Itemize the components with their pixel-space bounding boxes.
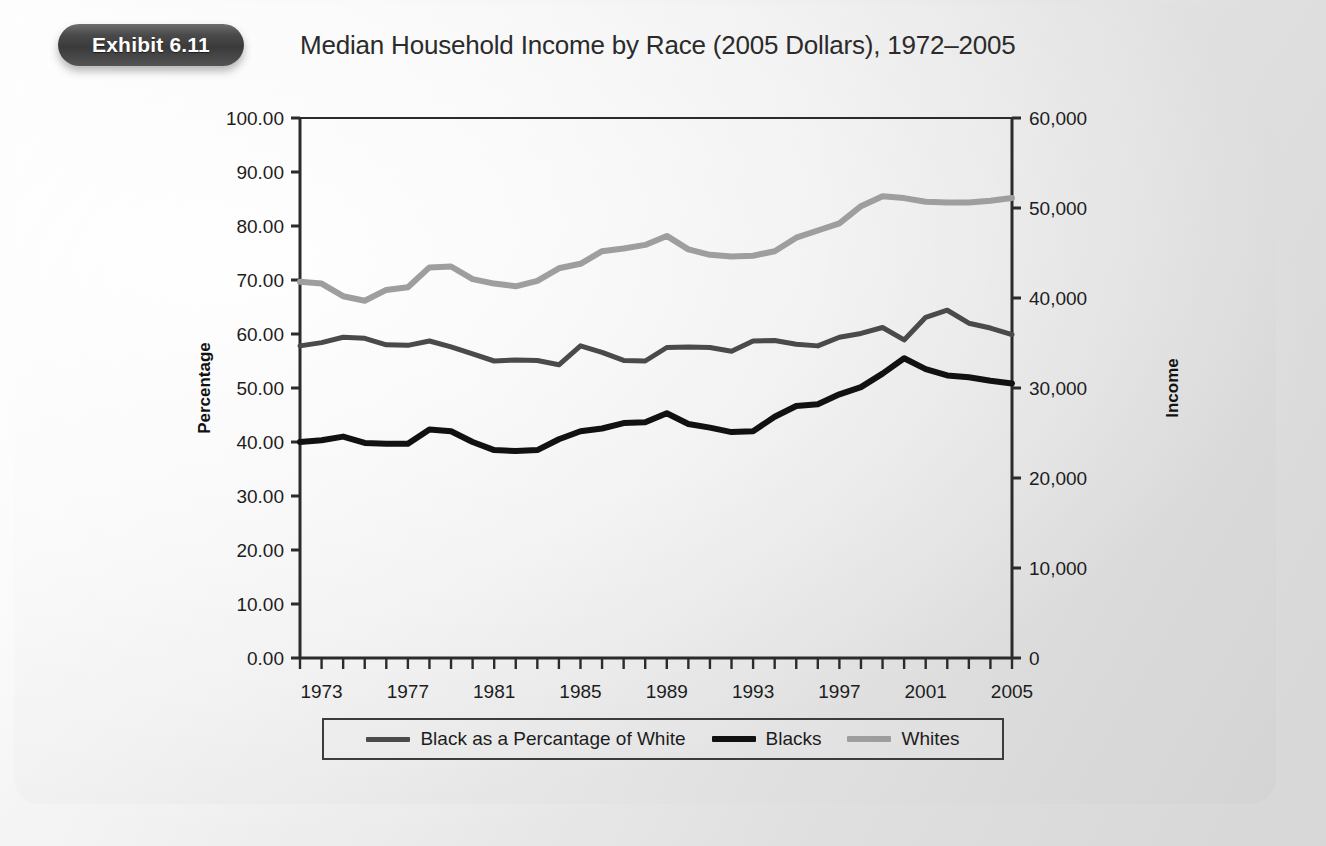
x-tick-label: 1985 xyxy=(559,681,601,702)
chart-legend: Black as a Percantage of White Blacks Wh… xyxy=(322,718,1004,760)
y-right-axis-title: Income xyxy=(1163,358,1182,418)
x-tick-label: 1981 xyxy=(473,681,515,702)
x-tick-label: 1977 xyxy=(387,681,429,702)
legend-label-whites: Whites xyxy=(901,728,959,750)
legend-swatch-whites xyxy=(847,736,891,742)
y-right-tick-label: 0 xyxy=(1029,648,1040,669)
y-right-tick-label: 20,000 xyxy=(1029,468,1087,489)
y-left-tick-label: 80.00 xyxy=(236,216,284,237)
y-left-tick-label: 40.00 xyxy=(236,432,284,453)
y-right-tick-label: 10,000 xyxy=(1029,558,1087,579)
legend-item-percentage[interactable]: Black as a Percantage of White xyxy=(366,728,685,750)
tick-labels-group: 0.0010.0020.0030.0040.0050.0060.0070.008… xyxy=(195,108,1182,702)
y-left-tick-label: 10.00 xyxy=(236,594,284,615)
y-right-tick-label: 30,000 xyxy=(1029,378,1087,399)
y-right-tick-label: 40,000 xyxy=(1029,288,1087,309)
y-left-tick-label: 20.00 xyxy=(236,540,284,561)
legend-swatch-blacks xyxy=(712,736,756,742)
legend-label-percentage: Black as a Percantage of White xyxy=(420,728,685,750)
legend-swatch-percentage xyxy=(366,737,410,742)
x-tick-label: 1997 xyxy=(818,681,860,702)
x-tick-label: 1993 xyxy=(732,681,774,702)
series-line-blacks xyxy=(300,358,1012,451)
x-tick-label: 1973 xyxy=(300,681,342,702)
y-left-tick-label: 30.00 xyxy=(236,486,284,507)
x-tick-label: 2001 xyxy=(905,681,947,702)
y-left-tick-label: 90.00 xyxy=(236,162,284,183)
legend-label-blacks: Blacks xyxy=(766,728,822,750)
y-left-tick-label: 0.00 xyxy=(247,648,284,669)
y-right-tick-label: 60,000 xyxy=(1029,108,1087,129)
y-left-tick-label: 50.00 xyxy=(236,378,284,399)
legend-item-blacks[interactable]: Blacks xyxy=(712,728,822,750)
y-right-tick-label: 50,000 xyxy=(1029,198,1087,219)
y-left-tick-label: 70.00 xyxy=(236,270,284,291)
legend-item-whites[interactable]: Whites xyxy=(847,728,959,750)
y-left-axis-title: Percentage xyxy=(195,342,214,434)
series-line-whites xyxy=(300,196,1012,300)
y-left-tick-label: 100.00 xyxy=(226,108,284,129)
x-tick-label: 2005 xyxy=(991,681,1033,702)
series-group xyxy=(300,196,1012,451)
x-tick-label: 1989 xyxy=(646,681,688,702)
y-left-tick-label: 60.00 xyxy=(236,324,284,345)
